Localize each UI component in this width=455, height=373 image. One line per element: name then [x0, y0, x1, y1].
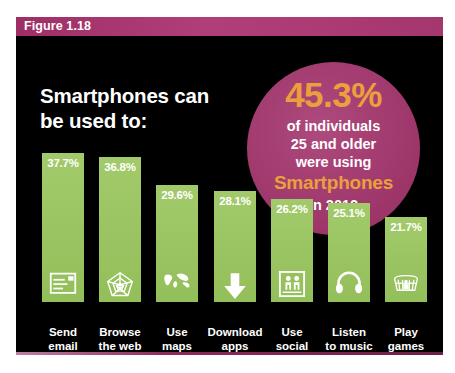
callout-line-4: Smartphones: [247, 172, 420, 194]
bar-value-label: 36.8%: [99, 161, 141, 173]
figure-underline: [16, 352, 443, 355]
bar-world-map: 29.6%: [156, 185, 198, 302]
infographic-panel: Smartphones can be used to: 45.3% of ind…: [16, 36, 443, 352]
category-label-download-arrow: Downloadapps: [207, 326, 263, 352]
callout-line-2: 25 and older: [247, 136, 420, 152]
category-label-line: Send: [35, 326, 91, 340]
category-label-two-people: Use socialmedia: [264, 326, 320, 352]
bar-download-arrow: 28.1%: [214, 191, 256, 302]
bar-stadium-game: 21.7%: [385, 217, 427, 302]
category-label-line: apps: [207, 340, 263, 353]
bar-value-label: 29.6%: [156, 189, 198, 201]
bar-value-label: 25.1%: [328, 207, 370, 219]
bar-envelope: 37.7%: [42, 153, 84, 302]
bar-value-label: 26.2%: [271, 203, 313, 215]
category-label-line: Use social: [264, 326, 320, 352]
title-line-2: be used to:: [40, 108, 209, 133]
category-label-stadium-game: Playgames: [378, 326, 434, 352]
bar-value-label: 28.1%: [214, 195, 256, 207]
title-line-1: Smartphones can: [40, 83, 209, 108]
category-label-spiderweb: Browsethe web: [92, 326, 148, 352]
envelope-icon: [49, 271, 77, 297]
world-map-icon: [163, 271, 191, 297]
callout-line-1: of individuals: [247, 118, 420, 134]
category-label-line: to music: [321, 340, 377, 353]
category-label-line: Download: [207, 326, 263, 340]
bar-spiderweb: 36.8%: [99, 157, 141, 302]
callout-percent: 45.3%: [247, 75, 420, 115]
category-label-line: Listen: [321, 326, 377, 340]
figure-container: Figure 1.18 Smartphones can be used to: …: [16, 17, 443, 355]
category-label-line: Use: [149, 326, 205, 340]
stadium-game-icon: [392, 271, 420, 297]
figure-label: Figure 1.18: [24, 19, 91, 33]
callout-line-3: were using: [247, 154, 420, 170]
bar-headphones: 25.1%: [328, 203, 370, 302]
category-label-headphones: Listento music: [321, 326, 377, 352]
bar-value-label: 21.7%: [385, 221, 427, 233]
page-title: Smartphones can be used to:: [40, 83, 209, 133]
category-label-line: email: [35, 340, 91, 353]
category-label-line: Play: [378, 326, 434, 340]
two-people-icon: [278, 271, 306, 297]
download-arrow-icon: [221, 271, 249, 297]
category-label-envelope: Sendemail: [35, 326, 91, 352]
figure-header-bar: Figure 1.18: [16, 17, 443, 36]
category-label-line: the web: [92, 340, 148, 353]
category-label-world-map: Usemaps: [149, 326, 205, 352]
spiderweb-icon: [106, 271, 134, 297]
bar-value-label: 37.7%: [42, 157, 84, 169]
category-label-line: games: [378, 340, 434, 353]
bar-two-people: 26.2%: [271, 199, 313, 302]
headphones-icon: [335, 271, 363, 297]
category-label-line: Browse: [92, 326, 148, 340]
category-label-line: maps: [149, 340, 205, 353]
